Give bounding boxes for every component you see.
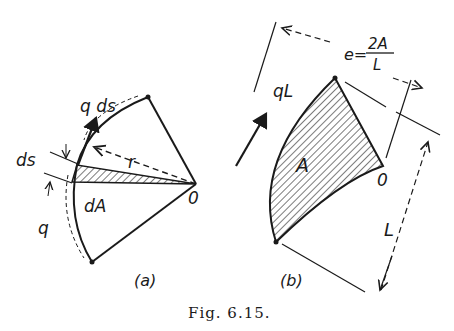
ds-arrow-bottom <box>48 182 50 196</box>
label-dA: dA <box>84 196 106 216</box>
L-dim-down <box>380 256 392 290</box>
label-origin-a: 0 <box>188 188 199 208</box>
ext-line-top <box>345 82 386 107</box>
vertex-top-b <box>333 76 338 81</box>
panel-a: q ds ds r dA 0 q (a) <box>16 95 199 291</box>
qL-arrow <box>236 114 266 166</box>
label-e-den: L <box>373 56 381 74</box>
label-L: L <box>384 219 394 240</box>
area-A <box>270 78 383 242</box>
label-ds: ds <box>16 150 36 170</box>
label-q-ds: q ds <box>80 96 116 116</box>
label-origin-b: 0 <box>377 170 388 190</box>
radial-line-top <box>148 97 196 184</box>
panel-b: qL A 0 e= 2A L L (b) <box>236 22 440 292</box>
e-dim-left <box>282 28 330 42</box>
label-qL: qL <box>273 81 293 101</box>
ext-line-origin <box>386 80 411 158</box>
label-area-A: A <box>294 154 309 176</box>
figure-caption: Fig. 6.15. <box>188 304 271 322</box>
panel-a-label: (a) <box>134 271 156 290</box>
label-e-num: 2A <box>368 35 388 53</box>
panel-b-label: (b) <box>280 271 303 290</box>
label-r: r <box>128 152 136 172</box>
ext-line-L-top <box>396 112 440 135</box>
vertex-top <box>146 95 151 100</box>
label-q: q <box>38 218 49 238</box>
radial-line-bottom <box>92 184 196 262</box>
e-dim-right <box>393 78 422 88</box>
vertex-bottom <box>90 260 95 265</box>
figure-canvas: q ds ds r dA 0 q (a) qL A 0 e= 2A L <box>0 0 454 331</box>
label-e-lhs: e= <box>344 45 367 64</box>
q-ds-arrow <box>78 118 96 165</box>
vertex-bottom-b <box>274 240 279 245</box>
ds-tick-top <box>50 152 78 164</box>
